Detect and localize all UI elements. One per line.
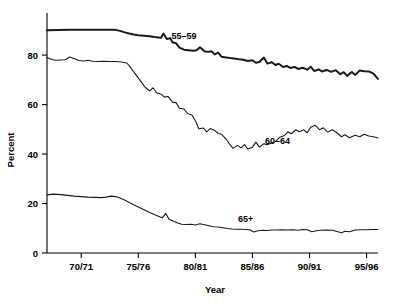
y-tick-label: 0 xyxy=(33,248,38,259)
series-annotation: 60–64 xyxy=(265,136,290,146)
x-axis-title: Year xyxy=(205,284,225,295)
x-tick-label: 70/71 xyxy=(69,261,93,272)
series-annotations: 55–5960–6465+ xyxy=(171,31,290,224)
series-line-65- xyxy=(47,194,378,233)
x-tick-label: 80/81 xyxy=(183,261,207,272)
y-axis-title: Percent xyxy=(5,132,16,168)
x-tick-label: 75/76 xyxy=(126,261,150,272)
line-chart: 020406080 70/7175/7680/8185/8690/9195/96… xyxy=(0,0,396,304)
series-line-55-59 xyxy=(47,30,378,79)
axis-spines xyxy=(47,13,378,253)
x-tick-label: 95/96 xyxy=(355,261,379,272)
y-axis-ticks xyxy=(42,55,47,253)
y-tick-label: 60 xyxy=(27,99,38,110)
data-series-group xyxy=(47,30,378,233)
y-axis-tick-labels: 020406080 xyxy=(27,50,38,259)
series-annotation: 55–59 xyxy=(171,31,196,41)
y-tick-label: 40 xyxy=(27,149,38,160)
y-tick-label: 80 xyxy=(27,50,38,61)
y-tick-label: 20 xyxy=(27,198,38,209)
x-tick-label: 85/86 xyxy=(241,261,265,272)
x-axis-tick-labels: 70/7175/7680/8185/8690/9195/96 xyxy=(69,261,378,272)
x-axis-ticks xyxy=(81,253,366,258)
x-tick-label: 90/91 xyxy=(298,261,322,272)
series-annotation: 65+ xyxy=(238,214,253,224)
chart-figure: 020406080 70/7175/7680/8185/8690/9195/96… xyxy=(0,0,396,304)
